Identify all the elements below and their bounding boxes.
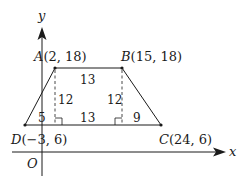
x-axis-label: x <box>229 144 237 159</box>
measure-top-AB: 13 <box>80 73 95 87</box>
trapezoid-diagram: y x O A(2, 18) B(15, 18) C(24, 6) D(−3, … <box>0 0 244 183</box>
label-B: B(15, 18) <box>120 49 182 64</box>
origin-label: O <box>27 156 38 171</box>
y-axis-label: y <box>37 8 46 23</box>
point-B <box>120 66 123 69</box>
measure-bottom-right: 9 <box>133 111 141 125</box>
measure-height-right: 12 <box>107 93 122 107</box>
point-A <box>53 66 56 69</box>
label-D: D(−3, 6) <box>10 132 67 147</box>
measure-bottom-left: 5 <box>38 111 46 125</box>
right-angle-mark-right <box>115 118 122 125</box>
measure-bottom-middle: 13 <box>80 111 95 125</box>
label-A: A(2, 18) <box>33 49 87 64</box>
label-C: C(24, 6) <box>159 132 212 147</box>
measure-height-left: 12 <box>58 93 73 107</box>
right-angle-mark-left <box>55 118 62 125</box>
point-D <box>23 123 26 126</box>
point-C <box>159 123 162 126</box>
